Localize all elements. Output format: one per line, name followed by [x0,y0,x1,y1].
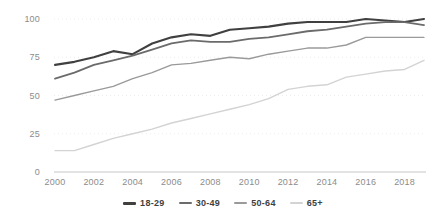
legend-item-50-64[interactable]: 50-64 [234,198,276,208]
y-tick-label-25: 25 [12,129,40,139]
y-tick-label-100: 100 [12,14,40,24]
x-tick-label-2012: 2012 [278,177,299,187]
chart-plot-area [0,0,446,221]
legend-label-18-29: 18-29 [140,198,165,208]
x-tick-label-2016: 2016 [355,177,376,187]
x-tick-label-2002: 2002 [83,177,104,187]
legend-swatch-18-29 [123,202,136,205]
legend-swatch-30-49 [179,202,192,205]
data-series-group [55,19,424,151]
x-tick-label-2006: 2006 [161,177,182,187]
y-tick-label-0: 0 [12,167,40,177]
legend-item-18-29[interactable]: 18-29 [123,198,165,208]
legend-label-65plus: 65+ [307,198,323,208]
x-tick-label-2004: 2004 [122,177,143,187]
series-line-30-49 [55,22,424,79]
gridlines [54,19,426,172]
chart-legend: 18-29 30-49 50-64 65+ [0,198,446,208]
x-tick-label-2008: 2008 [200,177,221,187]
y-axis-tick-labels: 0255075100 [10,0,40,190]
legend-swatch-65plus [290,202,303,204]
legend-label-30-49: 30-49 [196,198,221,208]
y-tick-label-50: 50 [12,91,40,101]
series-line-50-64 [55,37,424,100]
legend-item-30-49[interactable]: 30-49 [179,198,221,208]
x-tick-label-2018: 2018 [394,177,415,187]
y-tick-label-75: 75 [12,52,40,62]
series-line-65plus [55,60,424,150]
legend-label-50-64: 50-64 [251,198,276,208]
line-chart: 0255075100 20002002200420062008201020122… [0,0,446,221]
legend-item-65plus[interactable]: 65+ [290,198,323,208]
x-tick-label-2010: 2010 [239,177,260,187]
legend-swatch-50-64 [234,202,247,204]
x-tick-label-2014: 2014 [316,177,337,187]
x-tick-label-2000: 2000 [45,177,66,187]
